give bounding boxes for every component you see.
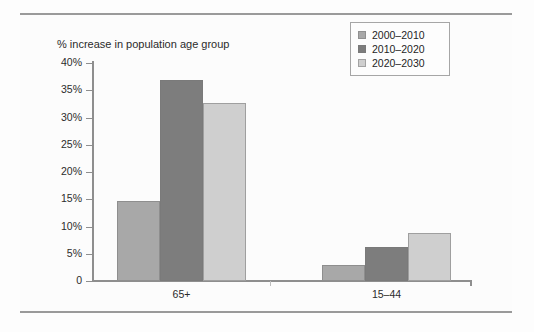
y-tick-5% (86, 254, 93, 255)
y-tick-label: 20% (36, 165, 82, 177)
chart-legend: 2000–20102010–20202020–2030 (350, 22, 450, 76)
legend-item-label: 2020–2030 (372, 57, 425, 69)
y-tick-30% (86, 118, 93, 119)
y-tick-label: 10% (36, 220, 82, 232)
legend-item-2[interactable]: 2010–2020 (358, 42, 443, 56)
legend-swatch-icon (358, 59, 366, 67)
y-tick-label: 15% (36, 192, 82, 204)
y-tick-20% (86, 172, 93, 173)
legend-item-label: 2010–2020 (372, 43, 425, 55)
legend-item-label: 2000–2010 (372, 29, 425, 41)
bar-1544-20202030 (408, 233, 451, 281)
bar-65-20202030 (203, 103, 246, 281)
legend-item-3[interactable]: 2020–2030 (358, 56, 443, 70)
y-tick-40% (86, 63, 93, 64)
legend-swatch-icon (358, 45, 366, 53)
y-tick-10% (86, 227, 93, 228)
y-tick-35% (86, 90, 93, 91)
figure-container: % increase in population age group 40%35… (0, 0, 534, 332)
chart-title: % increase in population age group (57, 38, 229, 50)
bar-chart: % increase in population age group 40%35… (0, 0, 534, 332)
bar-65-20002010 (117, 201, 160, 281)
bar-65-20102020 (160, 80, 203, 281)
y-tick-label: 40% (36, 56, 82, 68)
y-tick-label: 0 (36, 274, 82, 286)
y-tick-label: 5% (36, 247, 82, 259)
y-tick-0 (86, 281, 93, 282)
x-axis-label-1: 65+ (117, 288, 246, 300)
y-tick-25% (86, 145, 93, 146)
y-tick-label: 25% (36, 138, 82, 150)
legend-swatch-icon (358, 31, 366, 39)
legend-item-1[interactable]: 2000–2010 (358, 28, 443, 42)
x-axis-label-2: 15–44 (322, 288, 451, 300)
y-tick-15% (86, 199, 93, 200)
x-axis-group-separator (270, 281, 271, 286)
x-axis-end-tick (470, 280, 472, 286)
bar-1544-20002010 (322, 265, 365, 281)
y-tick-label: 30% (36, 111, 82, 123)
y-tick-label: 35% (36, 83, 82, 95)
bar-1544-20102020 (365, 247, 408, 281)
